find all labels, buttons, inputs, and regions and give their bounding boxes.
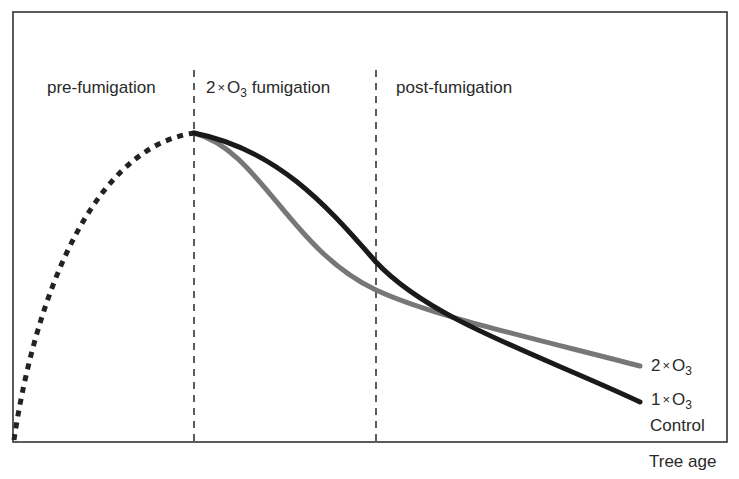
phase-label-fumigation: 2×O3 fumigation xyxy=(206,78,330,100)
chart-canvas xyxy=(0,0,739,479)
x-axis-label: Tree age xyxy=(649,452,716,472)
s2-num: 2 xyxy=(651,356,660,375)
phase2-sub: 3 xyxy=(240,86,247,100)
s1-num: 1 xyxy=(651,390,660,409)
series-1x-o3-line xyxy=(194,133,640,402)
times-glyph: × xyxy=(662,392,670,407)
series-label-1x: 1×O3 xyxy=(651,390,692,412)
series-label-control: Control xyxy=(650,416,705,436)
phase-label-pre: pre-fumigation xyxy=(47,78,156,98)
series-label-2x: 2×O3 xyxy=(651,356,692,378)
plot-frame xyxy=(13,12,727,442)
times-glyph: × xyxy=(662,358,670,373)
s2-sub: 3 xyxy=(685,364,692,378)
phase2-num: 2 xyxy=(206,78,215,97)
s2-o: O xyxy=(672,356,685,375)
phase2-text: fumigation xyxy=(252,78,330,97)
times-glyph: × xyxy=(217,80,225,95)
phase2-o: O xyxy=(227,78,240,97)
series-2x-o3-line xyxy=(194,133,640,366)
s1-o: O xyxy=(672,390,685,409)
pre-fumigation-curve xyxy=(14,133,194,440)
phase-label-post: post-fumigation xyxy=(396,78,512,98)
s1-sub: 3 xyxy=(685,398,692,412)
